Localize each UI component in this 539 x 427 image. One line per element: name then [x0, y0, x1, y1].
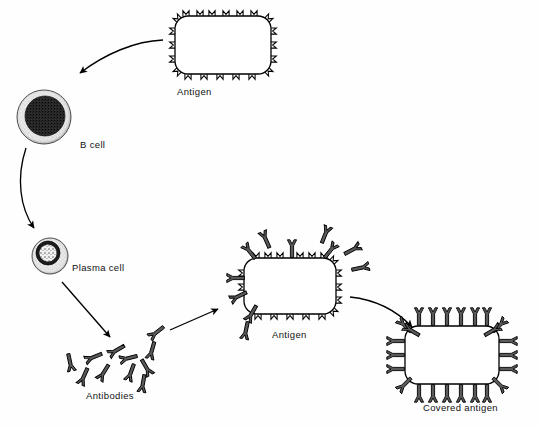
antibody-cloud-group: Antibodies [64, 323, 167, 401]
arrow-plasma-cell-to-antibodies [62, 282, 110, 337]
bound-antibody [428, 308, 437, 326]
bound-antibody [387, 336, 405, 345]
bound-antibody [470, 308, 479, 326]
antibody [147, 323, 167, 341]
antigen-top-group: Antigen [170, 11, 277, 97]
plasma-cell-nucleolus [39, 244, 56, 261]
b-cell-label: B cell [80, 139, 105, 150]
bound-antibody [387, 364, 405, 373]
incoming-antibody [342, 242, 362, 258]
covered-antigen-label: Covered antigen [423, 402, 498, 413]
incoming-antibody [351, 262, 370, 275]
bound-antibody [387, 350, 405, 359]
diagram-canvas: Antigen B cell Plasma cell [0, 0, 539, 427]
incoming-antibody [258, 230, 274, 250]
arrow-antibodies-to-antigen [170, 309, 218, 330]
bound-antibody [456, 385, 465, 403]
bound-antibody [442, 385, 451, 403]
bound-antibody [500, 336, 518, 345]
b-cell-nucleus [25, 96, 65, 136]
plasma-cell-group: Plasma cell [32, 238, 124, 274]
bound-antibody [414, 308, 423, 326]
covered-antigen-group: Covered antigen [387, 308, 517, 413]
bound-antibody [414, 385, 423, 403]
incoming-antibody [318, 225, 333, 245]
arrow-b-cell-to-plasma-cell [20, 148, 34, 228]
antigen-middle-label: Antigen [272, 329, 307, 340]
bound-antibody [442, 308, 451, 326]
antibody [64, 353, 77, 372]
antibody [119, 352, 138, 365]
bound-antibody [428, 385, 437, 403]
antibodies-label: Antibodies [86, 390, 134, 401]
antibody [107, 342, 127, 359]
b-cell-group: B cell [17, 90, 105, 150]
bound-antibody [500, 350, 518, 359]
antigen-top-body [175, 16, 271, 74]
antibody [84, 350, 104, 365]
bound-antibody [482, 385, 491, 403]
plasma-cell-label: Plasma cell [72, 262, 124, 273]
bound-antibody [287, 240, 296, 258]
bound-antibody [227, 273, 245, 282]
bound-antibody [470, 385, 479, 403]
antigen-middle-body [244, 258, 336, 314]
antibody [124, 363, 139, 383]
antibody [95, 362, 112, 382]
immune-response-diagram: Antigen B cell Plasma cell [0, 0, 539, 427]
antigen-top-label: Antigen [177, 86, 212, 97]
incoming-antibody [240, 321, 253, 340]
bound-antibody [456, 308, 465, 326]
antibody [145, 341, 159, 360]
antigen-middle-group: Antigen [227, 225, 370, 340]
antibody [138, 357, 155, 377]
bound-antibody [500, 364, 518, 373]
bound-antibody [482, 308, 491, 326]
arrow-antigen-to-b-cell [80, 40, 163, 73]
antibody [76, 366, 92, 386]
